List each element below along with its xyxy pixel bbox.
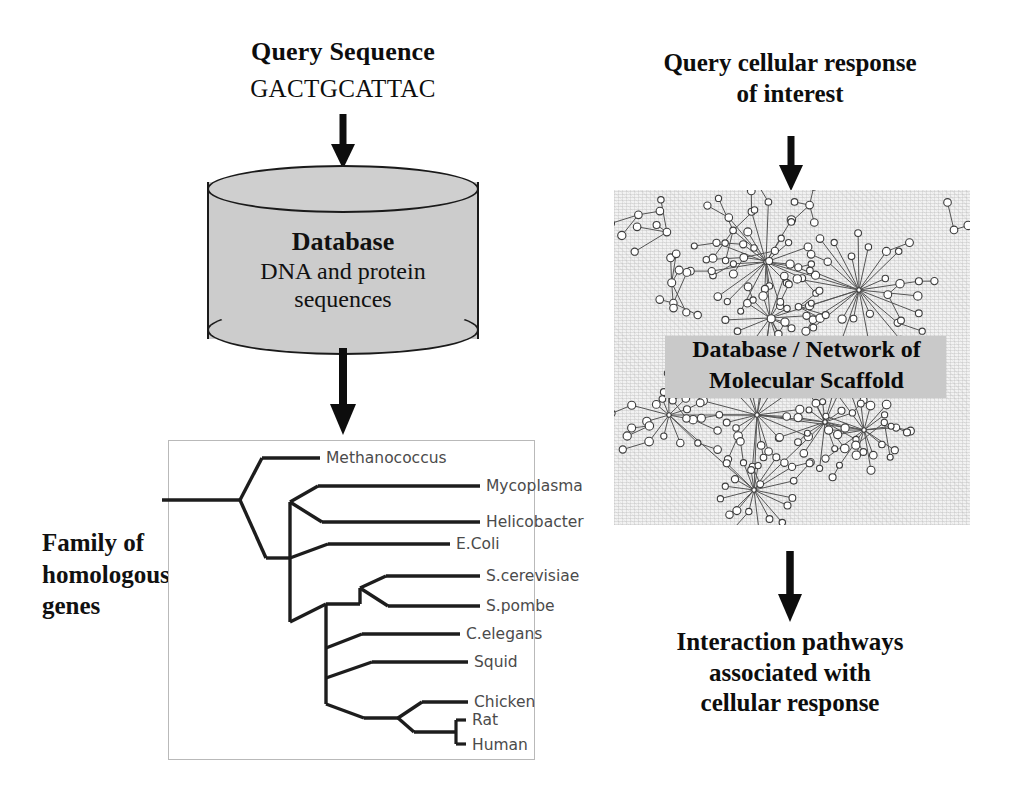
database-cylinder: Database DNA and protein sequences [207, 165, 479, 356]
arrow-network-to-result [772, 551, 808, 623]
arrow-query-to-database [326, 114, 360, 170]
cylinder-top-ellipse [207, 165, 479, 213]
tree-leaf-label: S.cerevisiae [486, 567, 579, 585]
network-label-text: Database / Network of Molecular Scaffold [654, 334, 959, 395]
tree-leaf-label: Methanococcus [326, 449, 447, 467]
tree-leaf-label: C.elegans [466, 625, 542, 643]
database-title: Database [207, 227, 479, 257]
result-line3: cellular response [610, 688, 970, 719]
tree-leaf-label: Rat [472, 711, 498, 729]
tree-leaf-label: Squid [474, 653, 518, 671]
query-response-title-line1: Query cellular response [610, 48, 970, 79]
database-subtitle-line2: sequences [207, 285, 479, 313]
phylogenetic-tree: Methanococcus Mycoplasma Helicobacter E.… [150, 436, 570, 768]
result-line1: Interaction pathways [610, 627, 970, 658]
tree-leaf-label: Chicken [474, 693, 535, 711]
query-response-title: Query cellular response of interest [610, 48, 970, 109]
database-label-group: Database DNA and protein sequences [207, 227, 479, 314]
query-response-title-line2: of interest [610, 79, 970, 110]
arrow-query-to-network [774, 136, 808, 192]
molecular-network-panel: Database / Network of Molecular Scaffold [614, 190, 970, 525]
tree-leaf-label: S.pombe [486, 597, 555, 615]
tree-leaf-label: Human [472, 736, 528, 754]
query-sequence-value: GACTGCATTAC [168, 74, 518, 105]
arrow-database-to-tree [326, 348, 360, 436]
tree-leaf-label: Mycoplasma [486, 477, 583, 495]
tree-leaf-label: Helicobacter [486, 513, 584, 531]
database-subtitle-line1: DNA and protein [207, 257, 479, 285]
diagram-canvas: Query Sequence GACTGCATTAC Database DNA … [0, 0, 1015, 797]
network-label-line2: Molecular Scaffold [654, 365, 959, 396]
interaction-pathways-result: Interaction pathways associated with cel… [610, 627, 970, 719]
result-line2: associated with [610, 658, 970, 689]
tree-leaf-label: E.Coli [456, 535, 500, 553]
network-label-line1: Database / Network of [654, 334, 959, 365]
query-sequence-title: Query Sequence [168, 36, 518, 68]
